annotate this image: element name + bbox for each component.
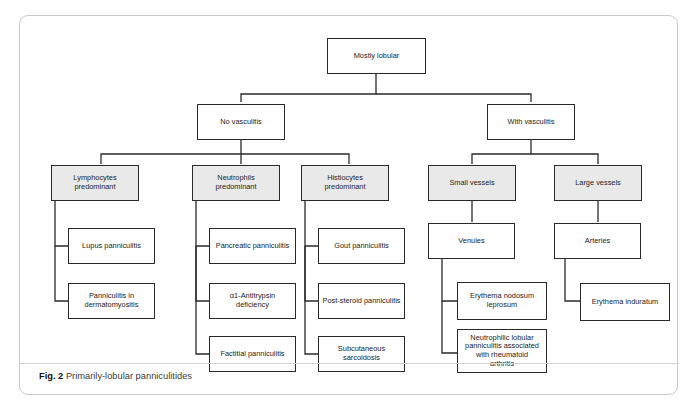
node-label: Arteries: [585, 237, 610, 246]
edge-withvasc-to-small-vessels: [472, 140, 531, 164]
edge-neut-to-factitial: [196, 246, 209, 354]
node-label-line2: dermatomyositis: [85, 301, 139, 310]
node-label-line2: leprosum: [470, 301, 534, 310]
node-large-vessels[interactable]: Large vessels: [554, 165, 642, 201]
node-erythema-nodosum-leprosum[interactable]: Erythema nodosum leprosum: [457, 282, 547, 320]
node-neutrophils-predominant[interactable]: Neutrophils predominant: [192, 165, 280, 201]
node-label: With vasculitis: [508, 118, 555, 127]
figure-caption: Fig. 2 Primarily-lobular panniculitides: [39, 371, 659, 381]
edge-root-to-with-vasculitis: [376, 94, 531, 102]
node-label: Post-steroid panniculitis: [322, 297, 400, 306]
node-label-line2: deficiency: [230, 301, 275, 310]
node-label: Large vessels: [575, 179, 621, 188]
node-label: No vasculitis: [220, 118, 261, 127]
node-mostly-lobular[interactable]: Mostly lobular: [327, 38, 426, 74]
node-lymphocytes-predominant[interactable]: Lymphocytes predominant: [51, 165, 139, 201]
edge-hist-to-gout: [305, 201, 318, 246]
node-label-line4: arthritis: [465, 360, 539, 369]
caption-divider: [20, 363, 679, 364]
node-label-line2: sarcoidosis: [338, 354, 385, 363]
node-label: Pancreatic panniculitis: [216, 242, 290, 251]
figure-caption-text: Primarily-lobular panniculitides: [66, 371, 192, 381]
node-with-vasculitis[interactable]: With vasculitis: [487, 104, 575, 140]
node-venules[interactable]: Venules: [428, 223, 515, 259]
figure-panel: Mostly lobular No vasculitis With vascul…: [19, 15, 678, 395]
edge-lymph-to-lupus: [55, 201, 68, 246]
edge-hist-to-sarcoidosis: [305, 246, 318, 354]
node-label-line2: predominant: [73, 183, 116, 192]
node-label: Venules: [458, 237, 484, 246]
node-small-vessels[interactable]: Small vessels: [428, 165, 516, 201]
node-erythema-induratum[interactable]: Erythema induratum: [580, 283, 670, 321]
edge-neut-to-pancreatic: [196, 201, 209, 246]
node-lupus-panniculitis[interactable]: Lupus panniculitis: [68, 228, 155, 264]
edge-novasc-to-histiocytes: [241, 154, 349, 164]
node-histiocytes-predominant[interactable]: Histiocytes predominant: [301, 165, 389, 201]
node-label: Factitial panniculitis: [220, 350, 284, 359]
edge-novasc-to-lymphocytes: [101, 140, 241, 164]
node-neutrophilic-lobular-panniculitis-rheumatoid[interactable]: Neutrophilic lobular panniculitis associ…: [457, 329, 547, 373]
node-label: Lupus panniculitis: [82, 242, 141, 251]
node-arteries[interactable]: Arteries: [554, 223, 641, 259]
node-label: Gout panniculitis: [334, 242, 389, 251]
node-factitial-panniculitis[interactable]: Factitial panniculitis: [209, 336, 296, 372]
node-a1-antitrypsin-deficiency[interactable]: α1-Antitrypsin deficiency: [209, 283, 296, 319]
node-pancreatic-panniculitis[interactable]: Pancreatic panniculitis: [209, 228, 296, 264]
edge-neut-to-antitrypsin: [196, 246, 209, 301]
edge-arteries-to-induratum: [565, 258, 580, 301]
edge-lymph-to-dermatomyositis: [55, 246, 68, 301]
edge-venules-to-neutrophilic-ra: [442, 301, 457, 353]
figure-number: Fig. 2: [39, 371, 63, 381]
edge-root-to-no-vasculitis: [241, 74, 376, 102]
node-panniculitis-in-dermatomyositis[interactable]: Panniculitis in dermatomyositis: [68, 283, 155, 319]
node-label: Erythema induratum: [592, 298, 659, 307]
node-subcutaneous-sarcoidosis[interactable]: Subcutaneous sarcoidosis: [318, 336, 405, 372]
node-label-line2: predominant: [324, 183, 365, 192]
flowchart-canvas: Mostly lobular No vasculitis With vascul…: [20, 16, 679, 361]
edge-venules-to-nodosum: [442, 258, 457, 301]
node-label: Small vessels: [449, 179, 494, 188]
node-label-line2: predominant: [215, 183, 256, 192]
node-gout-panniculitis[interactable]: Gout panniculitis: [318, 228, 405, 264]
node-no-vasculitis[interactable]: No vasculitis: [197, 104, 285, 140]
node-label: Mostly lobular: [354, 52, 400, 61]
edge-hist-to-post-steroid: [305, 246, 318, 301]
node-post-steroid-panniculitis[interactable]: Post-steroid panniculitis: [318, 283, 405, 319]
edge-withvasc-to-large-vessels: [531, 154, 598, 164]
